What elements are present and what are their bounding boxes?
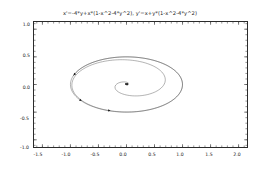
- y-tick-label: -1.0: [13, 145, 29, 150]
- streamplot-canvas: [34, 22, 247, 147]
- x-tick-label: 1.5: [199, 152, 219, 157]
- x-tick-label: 0.5: [142, 152, 162, 157]
- x-tick-label: -1.5: [28, 152, 48, 157]
- x-tick-label: -0.5: [85, 152, 105, 157]
- streamplot-figure: x'=-4*y+x*(1-x^2-4*y^2), y'=x+y*(1-x^2-4…: [0, 0, 260, 172]
- y-tick-label: -0.5: [13, 116, 29, 121]
- streamline-arrow: [108, 109, 111, 111]
- tick-group: [34, 22, 247, 147]
- chart-title: x'=-4*y+x*(1-x^2-4*y^2), y'=x+y*(1-x^2-4…: [0, 10, 260, 17]
- x-tick-label: 1.0: [170, 152, 190, 157]
- x-tick-label: -1.0: [56, 152, 76, 157]
- y-tick-label: 0.0: [14, 85, 30, 90]
- y-tick-label: 1.0: [14, 22, 30, 27]
- plot-axes: [33, 21, 248, 148]
- y-tick-label: 0.5: [14, 53, 30, 58]
- streamline-arrow: [79, 99, 82, 101]
- x-tick-label: 0.0: [113, 152, 133, 157]
- arrow-group: [74, 73, 128, 112]
- x-tick-label: 2.0: [227, 152, 247, 157]
